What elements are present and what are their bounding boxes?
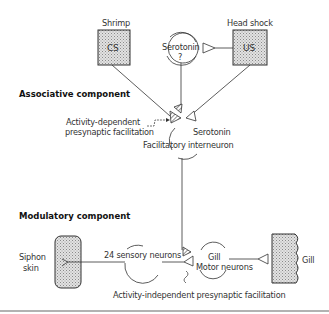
serotonin-terminal-small [174, 104, 182, 113]
us-synapse-terminal [203, 43, 215, 53]
siphon-label-2: skin [23, 264, 39, 272]
activity-dependent-label-2: presynaptic facilitation [65, 128, 154, 136]
cs-box-label: CS [107, 44, 119, 53]
us-stimulus-label: Head shock [227, 19, 273, 27]
serotonin-neuron-question: ? [178, 53, 182, 61]
sensory-neuron-arc [127, 245, 143, 249]
us-terminal [186, 111, 196, 121]
activity-dependent-label-1: Activity-dependent [66, 118, 140, 126]
serotonin-label: Serotonin [193, 128, 231, 136]
gill-box [272, 234, 298, 283]
sensory-neurons-label: 24 sensory neurons [104, 251, 181, 259]
facilitatory-interneuron-label: Facilitatory interneuron [143, 141, 234, 149]
activity-dependent-arrow [147, 120, 166, 126]
cs-stimulus-label: Shrimp [102, 19, 130, 27]
serotonin-neuron-label: Serotonin [162, 43, 200, 51]
us-box-label: US [243, 44, 255, 53]
motor-terminal [258, 254, 268, 264]
gill-label: Gill [302, 256, 314, 264]
cs-terminal [170, 111, 181, 123]
gill-motor-label-2: Motor neurons [196, 263, 253, 271]
motor-neuron-circle [201, 242, 225, 250]
activity-independent-arrow [184, 271, 188, 283]
activity-independent-label: Activity-independent presynaptic facilit… [113, 291, 285, 299]
sensory-terminal [184, 256, 193, 266]
siphon-label-1: Siphon [19, 253, 46, 261]
associative-component-title: Associative component [19, 90, 130, 99]
gill-motor-label-1: Gill [208, 253, 220, 261]
modulatory-component-title: Modulatory component [19, 212, 130, 221]
interneuron-terminal-lower [183, 247, 191, 256]
